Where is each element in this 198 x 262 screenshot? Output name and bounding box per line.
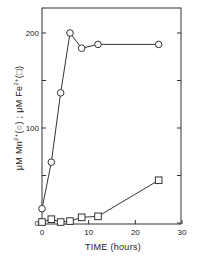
square-marker: [155, 177, 162, 184]
square-marker: [39, 219, 46, 226]
axis-ticks: 01020300100200: [26, 29, 187, 237]
circle-marker: [95, 41, 102, 48]
square-marker: [48, 216, 55, 223]
y-axis-label: μM Mn2+(○) ; μM Fe2+(□): [13, 66, 24, 170]
y-label-mn-marker: (○): [14, 121, 24, 133]
circle-marker: [155, 41, 162, 48]
circle-marker: [78, 45, 85, 52]
chart: 01020300100200 TIME (hours) μM Mn2+(○) ;…: [0, 0, 198, 262]
plot-border: [42, 8, 181, 224]
x-tick-label: 20: [131, 228, 140, 237]
y-label-fe-marker: (□): [14, 66, 24, 78]
data-series: [39, 30, 162, 226]
x-tick-label: 0: [40, 228, 45, 237]
x-tick-label: 30: [178, 228, 187, 237]
y-label-fe: μM Fe: [14, 86, 24, 113]
square-marker: [67, 218, 74, 225]
y-label-mn: μM Mn: [14, 141, 24, 170]
plot-frame: [42, 8, 181, 224]
circle-marker: [48, 159, 55, 166]
y-tick-label: 100: [26, 124, 40, 133]
y-label-sep: ;: [14, 113, 24, 121]
square-marker: [57, 219, 64, 226]
series-line: [42, 33, 159, 209]
circle-marker: [39, 205, 46, 212]
x-axis-label: TIME (hours): [85, 242, 141, 252]
y-tick-label: 200: [26, 29, 40, 38]
series-fe2-: [39, 177, 162, 225]
square-marker: [78, 214, 85, 221]
circle-marker: [57, 90, 64, 97]
series-mn2-: [39, 30, 162, 212]
square-marker: [95, 213, 102, 220]
x-tick-label: 10: [84, 228, 93, 237]
circle-marker: [67, 30, 74, 37]
